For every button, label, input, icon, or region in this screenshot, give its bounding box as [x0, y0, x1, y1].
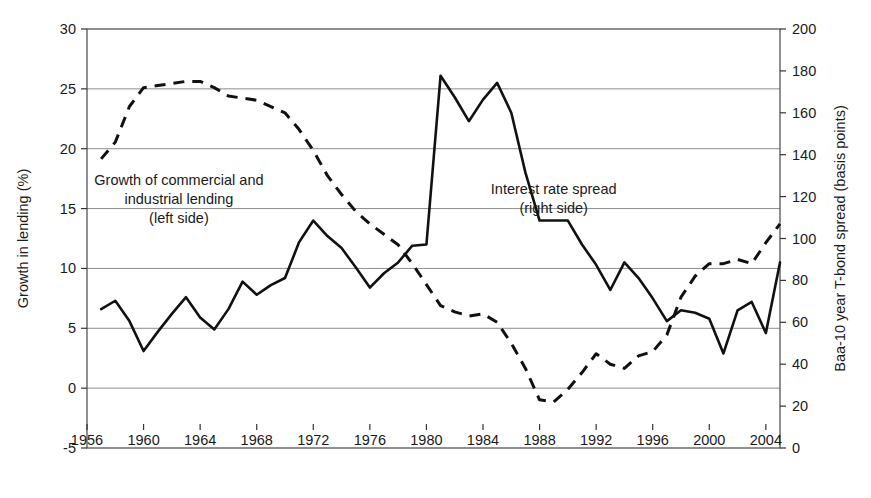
data-series-group	[101, 76, 780, 402]
y2-tick-label: 200	[792, 21, 816, 37]
y2-axis-tick-labels: 020406080100120140160180200	[792, 21, 816, 456]
x-tick-label: 1992	[580, 432, 612, 448]
y2-tick-label: 80	[792, 272, 808, 288]
y2-tick-label: 180	[792, 63, 816, 79]
tick-marks-group	[81, 29, 786, 448]
x-tick-label: 1980	[410, 432, 442, 448]
y2-tick-label: 160	[792, 105, 816, 121]
plot-frame	[87, 29, 780, 448]
plot-border	[87, 29, 780, 448]
x-tick-label: 1968	[241, 432, 273, 448]
y-tick-label: 30	[60, 21, 76, 37]
x-tick-label: 1984	[467, 432, 499, 448]
x-tick-label: 1976	[354, 432, 386, 448]
y2-tick-label: 20	[792, 398, 808, 414]
x-tick-label: 1996	[637, 432, 669, 448]
x-tick-label: 1964	[184, 432, 216, 448]
x-tick-label: 1972	[297, 432, 329, 448]
y2-tick-label: 140	[792, 147, 816, 163]
y2-tick-label: 40	[792, 356, 808, 372]
y2-tick-label: 120	[792, 189, 816, 205]
x-axis-tick-labels: 1956196019641968197219761980198419881992…	[71, 432, 782, 448]
chart-container: 1956196019641968197219761980198419881992…	[0, 0, 871, 498]
y2-axis-title: Baa-10 year T-bond spread (basis points)	[832, 105, 848, 372]
y2-tick-label: 100	[792, 231, 816, 247]
series-line-spread	[101, 81, 780, 402]
y2-tick-label: 60	[792, 314, 808, 330]
y-tick-label: 15	[60, 201, 76, 217]
y-tick-label: 20	[60, 141, 76, 157]
y-axis-tick-labels: -5051015202530	[60, 21, 76, 456]
lending-annotation: Growth of commercial andindustrial lendi…	[94, 172, 263, 226]
x-tick-label: 2000	[693, 432, 725, 448]
y-tick-label: 5	[68, 320, 76, 336]
y-axis-title: Growth in lending (%)	[15, 169, 31, 308]
x-tick-label: 2004	[750, 432, 782, 448]
y-tick-label: 10	[60, 260, 76, 276]
y2-tick-label: 0	[792, 440, 800, 456]
axis-titles-group: Growth in lending (%)Baa-10 year T-bond …	[15, 105, 848, 372]
y-tick-label: 25	[60, 81, 76, 97]
x-tick-label: 1988	[523, 432, 555, 448]
y-tick-label: -5	[63, 440, 76, 456]
x-tick-label: 1960	[127, 432, 159, 448]
spread-annotation: Interest rate spread(right side)	[491, 181, 617, 216]
y-tick-label: 0	[68, 380, 76, 396]
gridlines-group	[87, 89, 780, 388]
line-chart: 1956196019641968197219761980198419881992…	[0, 0, 871, 498]
